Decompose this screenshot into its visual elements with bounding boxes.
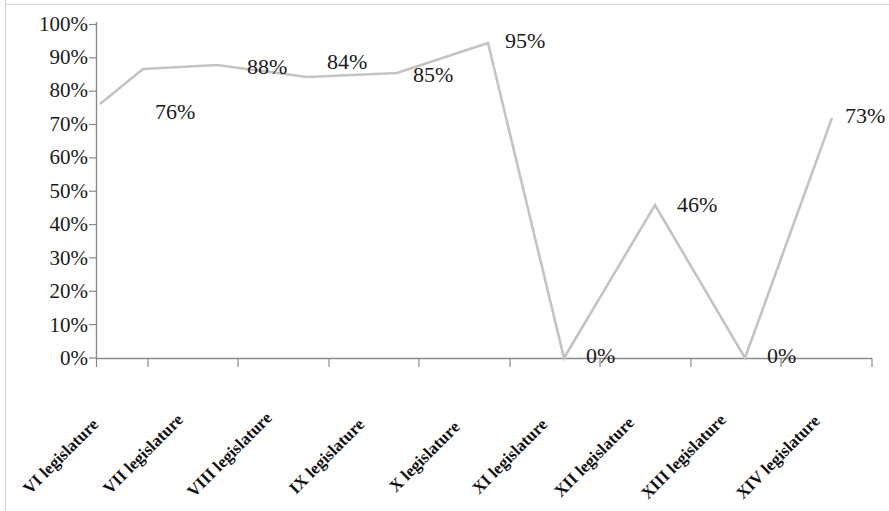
data-series-line <box>100 43 832 358</box>
data-label-vi: 76% <box>155 101 195 123</box>
y-axis-ticks <box>89 25 97 359</box>
data-label-x: 95% <box>505 30 545 52</box>
chart-page: 100% 90% 80% 70% 60% 50% 40% 30% 20% 10%… <box>0 0 889 511</box>
data-label-xiii: 0% <box>767 345 796 367</box>
data-label-vii: 88% <box>247 56 287 78</box>
data-label-xiv: 73% <box>845 105 885 127</box>
data-label-xii: 46% <box>677 194 717 216</box>
data-label-viii: 84% <box>327 51 367 73</box>
line-chart: 100% 90% 80% 70% 60% 50% 40% 30% 20% 10%… <box>0 0 889 511</box>
data-label-ix: 85% <box>413 64 453 86</box>
x-axis-ticks <box>97 359 873 368</box>
data-label-xi: 0% <box>586 345 615 367</box>
